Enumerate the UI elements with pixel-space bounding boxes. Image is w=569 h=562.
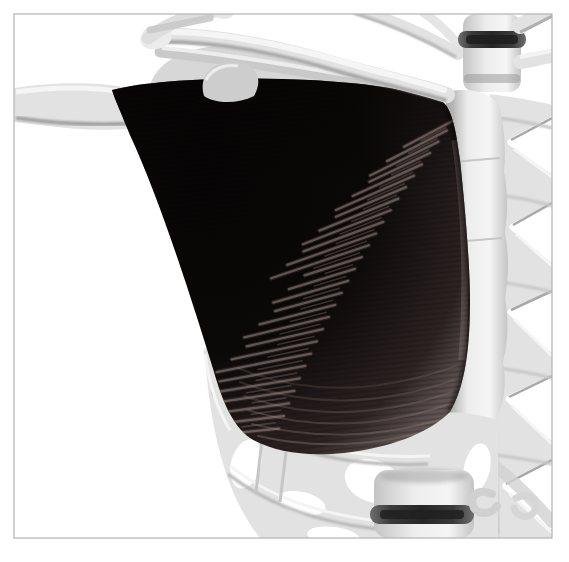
rib-gap [203,478,228,534]
disc-core [466,35,518,44]
muscle-fiber-texture [112,78,470,454]
pectoralis-major-muscle [90,60,480,454]
medical-illustration-canvas [0,0,569,562]
bone-shading [380,469,468,483]
disc-core [380,510,464,519]
upper-ribs [352,8,462,57]
disc-shadow [464,74,520,83]
illustration-stage [0,0,569,562]
bone-knob [214,5,234,19]
